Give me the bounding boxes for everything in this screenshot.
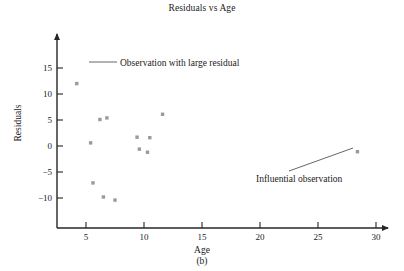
influential-observation-label: Influential observation: [256, 174, 343, 184]
data-point: [146, 151, 149, 154]
y-tick-label: 10: [43, 89, 53, 99]
annotation-influential-observation: Influential observation: [256, 148, 353, 184]
data-point: [91, 181, 94, 184]
y-tick-label: 0: [48, 141, 53, 151]
influential-leader-line: [289, 148, 353, 171]
y-tick-label: 5: [48, 115, 53, 125]
data-point: [138, 147, 141, 150]
data-point: [98, 118, 101, 121]
data-point: [113, 198, 116, 201]
data-point: [161, 113, 164, 116]
x-axis-ticks: 51015202530: [84, 222, 381, 242]
x-tick-label: 5: [84, 232, 89, 242]
data-point: [105, 116, 108, 119]
y-axis-ticks: −10−5051015: [38, 63, 63, 203]
x-tick-label: 30: [372, 232, 382, 242]
data-point: [135, 135, 138, 138]
y-tick-label: −5: [42, 167, 52, 177]
y-tick-label: −10: [38, 193, 53, 203]
large-residual-label: Observation with large residual: [120, 58, 240, 68]
scatter-plot: −10−5051015 51015202530 Observation with…: [0, 0, 404, 271]
annotation-large-residual: Observation with large residual: [75, 58, 240, 86]
data-points-layer: [89, 113, 359, 202]
figure-caption: (b): [0, 256, 404, 266]
y-tick-label: 15: [43, 63, 53, 73]
x-tick-label: 10: [140, 232, 150, 242]
x-tick-label: 25: [314, 232, 324, 242]
data-point: [148, 136, 151, 139]
data-point: [102, 195, 105, 198]
data-point: [356, 150, 359, 153]
figure-panel: Residuals vs Age Residuals Age −10−50510…: [0, 0, 404, 271]
x-tick-label: 15: [198, 232, 208, 242]
data-point: [89, 141, 92, 144]
x-tick-label: 20: [256, 232, 266, 242]
large-residual-marker: [75, 82, 78, 85]
